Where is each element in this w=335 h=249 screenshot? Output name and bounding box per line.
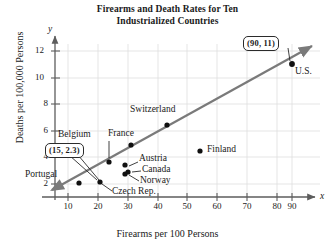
leader-norway: [129, 175, 139, 181]
x-axis-letter: x: [320, 191, 324, 201]
y-tick-label-2: 2: [32, 178, 48, 188]
x-tick-label-60: 60: [205, 201, 229, 211]
point-label-czech-rep: Czech Rep.: [112, 186, 156, 196]
point-label-norway: Norway: [140, 175, 171, 185]
point-label-france: France: [108, 128, 134, 138]
data-point-france: [128, 142, 133, 147]
data-point-finland: [197, 148, 202, 153]
y-tick-label-8: 8: [32, 98, 48, 108]
y-tick-label-12: 12: [28, 45, 44, 55]
point-label-austria: Austria: [139, 153, 167, 163]
point-label-us: U.S.: [295, 66, 312, 76]
point-label-portugal: Portugal: [25, 169, 57, 179]
data-point-belgium: [106, 159, 111, 164]
plot-area: 10 20 30 40 50 60 70 80 90 2 4 6 8 10 12…: [0, 0, 335, 249]
point-label-finland: Finland: [207, 144, 236, 154]
point-label-switzerland: Switzerland: [130, 104, 175, 114]
x-tick-label-10: 10: [56, 201, 80, 211]
data-point-austria: [122, 162, 127, 167]
data-point-canada: [125, 169, 130, 174]
trend-line: [52, 46, 312, 190]
data-point-czech-rep: [97, 179, 102, 184]
data-point-portugal: [76, 180, 81, 185]
x-tick-label-30: 30: [116, 201, 140, 211]
x-tick-label-20: 20: [86, 201, 110, 211]
y-axis-letter: y: [48, 24, 52, 34]
x-tick-label-50: 50: [175, 201, 199, 211]
grid-vertical: [68, 44, 292, 197]
x-tick-label-70: 70: [235, 201, 259, 211]
chart-svg: [0, 0, 335, 249]
x-tick-label-90: 90: [280, 201, 304, 211]
data-point-switzerland: [164, 122, 169, 127]
x-tick-label-40: 40: [146, 201, 170, 211]
y-tick-label-10: 10: [28, 72, 44, 82]
leader-czech-rep: [102, 184, 112, 191]
y-tick-label-6: 6: [32, 125, 48, 135]
point-label-belgium: Belgium: [58, 129, 91, 139]
point-label-canada: Canada: [142, 164, 171, 174]
annotation-callout-us: (90, 11): [243, 36, 279, 51]
leader-canada: [132, 171, 141, 172]
grid-horizontal: [55, 51, 320, 184]
data-points: [76, 61, 295, 185]
leader-callout-czech-b: [78, 155, 99, 180]
leader-austria: [129, 162, 138, 166]
chart-container: Firearms and Death Rates for Ten Industr…: [0, 0, 335, 249]
annotation-callout-czech-rep: (15, 2.3): [45, 143, 84, 158]
